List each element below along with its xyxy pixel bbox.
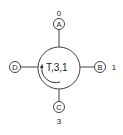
port-c[interactable]: C <box>54 102 65 113</box>
center-node[interactable]: T,3,1 <box>38 47 80 89</box>
port-a-value: 0 <box>57 9 62 18</box>
port-a-id: A <box>56 20 61 29</box>
port-c-value: 3 <box>57 117 62 126</box>
center-node-label: T,3,1 <box>46 62 68 73</box>
port-d[interactable]: D <box>10 62 21 73</box>
port-b-id: B <box>97 63 102 72</box>
port-b-value: 1 <box>112 63 117 72</box>
port-c-id: C <box>56 103 62 112</box>
port-d-id: D <box>12 63 18 72</box>
port-a[interactable]: A <box>54 19 65 30</box>
diagram-canvas: T,3,1 A 0 B 1 C 3 D <box>0 0 123 135</box>
port-b[interactable]: B <box>95 62 106 73</box>
